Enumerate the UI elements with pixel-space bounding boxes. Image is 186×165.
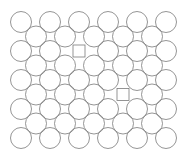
square-vacancy xyxy=(117,89,129,101)
square-vacancy xyxy=(73,45,85,57)
circle xyxy=(127,128,148,149)
circle xyxy=(156,99,177,120)
circle xyxy=(156,41,177,62)
circle xyxy=(98,128,119,149)
circle xyxy=(156,128,177,149)
circle xyxy=(156,70,177,91)
circle xyxy=(40,128,61,149)
circle xyxy=(84,26,105,47)
circle xyxy=(156,12,177,33)
circle-packing-diagram xyxy=(0,0,186,165)
circle xyxy=(69,128,90,149)
circle xyxy=(98,70,119,91)
circle xyxy=(11,128,32,149)
